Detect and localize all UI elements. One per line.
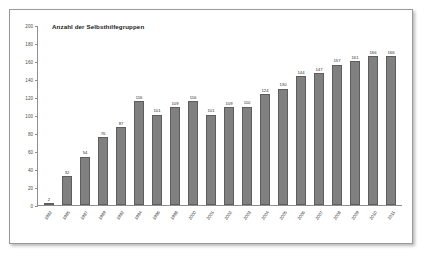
bar-item[interactable]: 166 — [364, 26, 382, 205]
x-axis-tick-label: 2001 — [206, 210, 216, 221]
bar-item[interactable]: 110 — [238, 26, 256, 205]
bar-rect[interactable] — [80, 157, 90, 205]
bar-value-label: 144 — [298, 71, 305, 75]
bar-rect[interactable] — [296, 76, 306, 205]
y-axis-tick-label: 120 — [13, 96, 33, 101]
x-axis-tick-label: 2008 — [332, 210, 342, 221]
bar-item[interactable]: 144 — [292, 26, 310, 205]
y-axis-tick-label: 20 — [13, 186, 33, 191]
bar-item[interactable]: 2 — [40, 26, 58, 205]
x-axis-tick-label: 2011 — [386, 210, 396, 221]
bar-item[interactable]: 157 — [328, 26, 346, 205]
plot-area: 020406080100120140160180200 232547687116… — [37, 26, 402, 206]
bar-item[interactable]: 87 — [112, 26, 130, 205]
x-axis-tick-label: 1994 — [134, 210, 144, 221]
bar-rect[interactable] — [152, 115, 162, 205]
bar-rect[interactable] — [368, 56, 378, 205]
bar-item[interactable]: 166 — [382, 26, 400, 205]
y-axis-tick-label: 160 — [13, 60, 33, 65]
bar-item[interactable]: 109 — [166, 26, 184, 205]
bar-item[interactable]: 54 — [76, 26, 94, 205]
x-axis-label-cell: 2006 — [293, 208, 311, 244]
x-axis-label-cell: 2004 — [257, 208, 275, 244]
x-axis-tick-label: 2007 — [314, 210, 324, 221]
bar-rect[interactable] — [332, 65, 342, 206]
bar-value-label: 32 — [65, 171, 70, 175]
x-axis-label-cell: 2001 — [202, 208, 220, 244]
x-axis-tick-label: 2002 — [224, 210, 234, 221]
bar-rect[interactable] — [386, 56, 396, 205]
bar-value-label: 2 — [48, 198, 50, 202]
bar-rect[interactable] — [350, 61, 360, 205]
y-axis-tick-mark — [35, 206, 38, 207]
x-axis-label-cell: 2008 — [329, 208, 347, 244]
bar-item[interactable]: 130 — [274, 26, 292, 205]
bar-item[interactable]: 147 — [310, 26, 328, 205]
bar-rect[interactable] — [170, 107, 180, 205]
x-axis-label-cell: 1989 — [94, 208, 112, 244]
x-axis-tick-label: 1985 — [61, 210, 71, 221]
bar-rect[interactable] — [206, 115, 216, 205]
bar-rect[interactable] — [44, 203, 54, 205]
x-axis-label-cell: 2005 — [275, 208, 293, 244]
x-axis-tick-label: 2009 — [350, 210, 360, 221]
x-axis-tick-label: 1982 — [43, 210, 53, 221]
y-axis-tick-label: 200 — [13, 24, 33, 29]
bar-item[interactable]: 32 — [58, 26, 76, 205]
x-axis-tick-label: 1989 — [98, 210, 108, 221]
bar-item[interactable]: 101 — [148, 26, 166, 205]
bar-value-label: 124 — [262, 89, 269, 93]
bar-value-label: 101 — [154, 109, 161, 113]
y-axis-tick-label: 40 — [13, 168, 33, 173]
chart-frame: Anzahl der Selbsthilfegruppen 0204060801… — [9, 9, 413, 244]
x-axis-line — [37, 205, 402, 206]
bar-item[interactable]: 124 — [256, 26, 274, 205]
bar-item[interactable]: 161 — [346, 26, 364, 205]
bar-value-label: 76 — [101, 132, 106, 136]
x-axis-tick-label: 2005 — [278, 210, 288, 221]
x-axis-tick-label: 2003 — [242, 210, 252, 221]
bar-rect[interactable] — [242, 107, 252, 205]
x-axis-tick-label: 1996 — [152, 210, 162, 221]
x-axis-label-cell: 1998 — [166, 208, 184, 244]
x-axis-label-cell: 2000 — [184, 208, 202, 244]
bar-rect[interactable] — [314, 73, 324, 205]
bar-rect[interactable] — [188, 101, 198, 205]
bar-value-label: 101 — [208, 109, 215, 113]
bar-value-label: 87 — [119, 122, 124, 126]
x-axis-label-cell: 1987 — [76, 208, 94, 244]
bar-value-label: 116 — [190, 96, 197, 100]
x-axis-tick-label: 1998 — [170, 210, 180, 221]
x-axis-tick-label: 1987 — [79, 210, 89, 221]
bar-rect[interactable] — [278, 89, 288, 205]
bar-item[interactable]: 101 — [202, 26, 220, 205]
x-axis-tick-label: 2000 — [188, 210, 198, 221]
x-axis-tick-label: 2010 — [368, 210, 378, 221]
y-axis-tick-label: 100 — [13, 114, 33, 119]
bar-value-label: 161 — [352, 56, 359, 60]
y-axis-tick-label: 140 — [13, 78, 33, 83]
bar-rect[interactable] — [98, 137, 108, 205]
bar-rect[interactable] — [116, 127, 126, 205]
bar-value-label: 54 — [83, 151, 88, 155]
bar-rect[interactable] — [260, 94, 270, 205]
bar-rect[interactable] — [62, 176, 72, 205]
x-axis-label-cell: 2007 — [311, 208, 329, 244]
bar-item[interactable]: 116 — [184, 26, 202, 205]
bar-value-label: 166 — [388, 51, 395, 55]
x-axis-label-cell: 1994 — [130, 208, 148, 244]
bar-value-label: 166 — [370, 51, 377, 55]
x-axis-label-cell: 2003 — [239, 208, 257, 244]
bar-series: 2325476871161011091161011091101241301441… — [38, 26, 402, 205]
bar-rect[interactable] — [224, 107, 234, 205]
bar-rect[interactable] — [134, 101, 144, 205]
bar-item[interactable]: 109 — [220, 26, 238, 205]
x-axis-label-cell: 1982 — [40, 208, 58, 244]
x-axis-tick-label: 2004 — [260, 210, 270, 221]
bar-item[interactable]: 76 — [94, 26, 112, 205]
x-axis-label-cell: 2011 — [383, 208, 401, 244]
bar-item[interactable]: 116 — [130, 26, 148, 205]
bar-value-label: 109 — [172, 102, 179, 106]
x-axis-tick-label: 2006 — [296, 210, 306, 221]
x-axis-label-cell: 1996 — [148, 208, 166, 244]
